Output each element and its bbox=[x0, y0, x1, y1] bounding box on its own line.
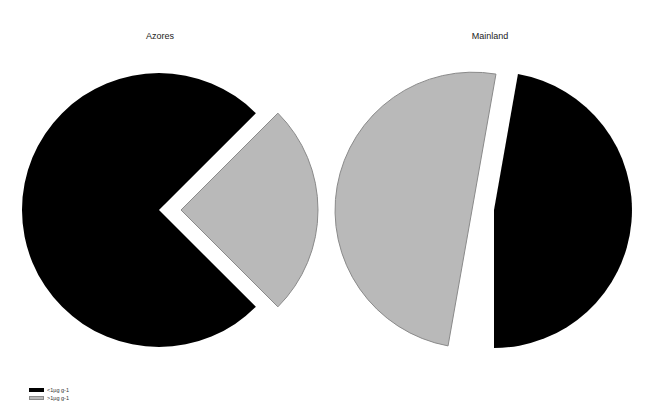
azores-pie bbox=[22, 73, 318, 347]
legend-swatch-gray bbox=[29, 396, 44, 400]
legend-item-above-1ug: >1µg g-1 bbox=[29, 394, 69, 402]
legend-item-below-1ug: <1µg g-1 bbox=[29, 386, 69, 394]
legend-swatch-black bbox=[29, 388, 44, 392]
mainland-pie bbox=[335, 72, 632, 348]
mainland-slice-above-1ug bbox=[335, 72, 496, 346]
pie-charts bbox=[0, 0, 645, 419]
legend-label: <1µg g-1 bbox=[47, 387, 69, 393]
legend: <1µg g-1 >1µg g-1 bbox=[29, 386, 69, 402]
legend-label: >1µg g-1 bbox=[47, 395, 69, 401]
mainland-slice-below-1ug bbox=[494, 74, 632, 348]
